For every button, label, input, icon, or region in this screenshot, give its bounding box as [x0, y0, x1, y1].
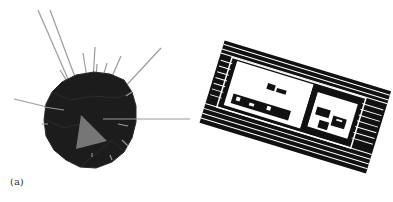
- sphere: [44, 72, 136, 168]
- figure-panel-b: (b): [195, 0, 393, 202]
- building-point-cloud: [195, 0, 393, 202]
- sphere-rays-illustration: [0, 0, 195, 202]
- panel-label-a: (a): [10, 176, 24, 187]
- figure-panel-a: (a): [0, 0, 195, 202]
